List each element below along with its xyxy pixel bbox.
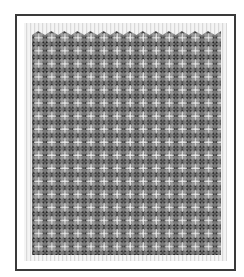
tessellation-pattern: [32, 31, 221, 255]
frame-mat: [24, 23, 227, 261]
picture-frame: [15, 14, 236, 271]
tessellation-artwork: [32, 31, 221, 255]
